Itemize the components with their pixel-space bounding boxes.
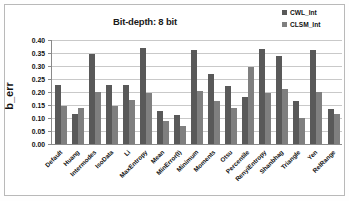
bar-group (69, 40, 86, 144)
x-tick-cell: IsoData (102, 146, 119, 198)
x-tick-label-text: Yen (306, 148, 319, 161)
bar-group (206, 40, 223, 144)
bar-group (86, 40, 103, 144)
y-tick-label: 0.35 (32, 50, 45, 57)
bar-group (325, 40, 342, 144)
y-axis-title: b_err (2, 56, 16, 136)
x-tick-label-text: Li (122, 148, 131, 157)
bar (61, 106, 67, 144)
x-tick-cell: Moments (205, 146, 222, 198)
bar-group (52, 40, 69, 144)
bar-group (120, 40, 137, 144)
y-tick-label: 0.40 (32, 37, 45, 44)
legend-label-cwl-int: CWL_Int (290, 9, 317, 16)
y-tick-label: 0.15 (32, 102, 45, 109)
y-tick-label: 0.25 (32, 76, 45, 83)
chart-figure: Bit-depth: 8 bit CWL_Int CLSM_Int b_err … (0, 0, 349, 201)
bar (248, 67, 254, 144)
legend-item-clsm-int: CLSM_Int (270, 18, 344, 30)
bar-group (308, 40, 325, 144)
bar (95, 92, 101, 144)
bar-group (137, 40, 154, 144)
x-tick-cell: Shanbhag (273, 146, 290, 198)
chart-title: Bit-depth: 8 bit (60, 16, 230, 27)
x-tick-cell: RelRange (324, 146, 341, 198)
bar-group (240, 40, 257, 144)
y-tick-label: 0.20 (32, 89, 45, 96)
bar (180, 126, 186, 144)
y-tick-label: 0.30 (32, 63, 45, 70)
plot-area (51, 40, 342, 145)
legend-swatch-cwl-int (282, 10, 287, 15)
x-axis-tick-labels: DefaultHuangIntermodesIsoDataLiMaxEntrop… (51, 146, 341, 198)
legend-swatch-clsm-int (282, 22, 287, 27)
x-tick-cell: Default (51, 146, 68, 198)
y-tick-label: 0.10 (32, 115, 45, 122)
bar-groups (52, 40, 342, 144)
x-tick-cell: MaxEntropy (136, 146, 153, 198)
bar (334, 114, 340, 144)
x-tick-cell: Intermodes (85, 146, 102, 198)
bar (146, 93, 152, 144)
y-tick-label: 0.00 (32, 141, 45, 148)
bar-group (257, 40, 274, 144)
bar-group (223, 40, 240, 144)
legend-label-clsm-int: CLSM_Int (290, 21, 320, 28)
x-tick-cell: Triangle (290, 146, 307, 198)
legend-item-cwl-int: CWL_Int (270, 6, 344, 18)
y-axis-title-text: b_err (3, 82, 15, 110)
chart-legend: CWL_Int CLSM_Int (270, 6, 344, 30)
y-axis-tick-labels: 0.000.050.100.150.200.250.300.350.40 (24, 36, 48, 148)
y-tick-label: 0.05 (32, 128, 45, 135)
